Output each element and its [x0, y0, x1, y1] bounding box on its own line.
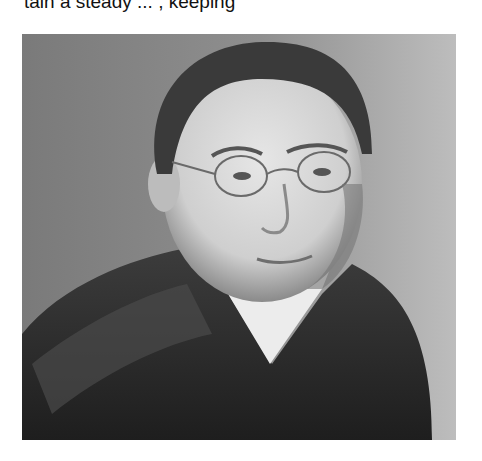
- clipped-body-text: tain a steady ... , keeping: [24, 0, 464, 13]
- portrait-photo: [22, 34, 456, 440]
- portrait-illustration: [22, 34, 456, 440]
